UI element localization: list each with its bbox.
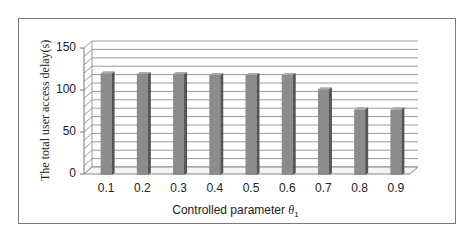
- gridline-wall: [84, 75, 92, 82]
- bar-0.6: [282, 75, 293, 175]
- bar-side: [148, 72, 151, 175]
- bar-0.4: [209, 75, 220, 175]
- gridline-wall: [84, 133, 92, 140]
- bar-side: [112, 71, 115, 175]
- gridline-wall: [84, 142, 92, 149]
- x-tick-label: 0.6: [272, 181, 302, 195]
- gridline-wall: [84, 58, 92, 65]
- bar-side: [257, 73, 260, 175]
- gridline-wall: [84, 100, 92, 107]
- y-tick-label: 50: [46, 124, 76, 138]
- gridline-wall: [84, 150, 92, 157]
- gridline-wall: [84, 83, 92, 90]
- gridline-wall: [84, 159, 92, 166]
- gridline-wall: [84, 91, 92, 98]
- x-tick-label: 0.8: [345, 181, 375, 195]
- x-tick-label: 0.1: [91, 181, 121, 195]
- bar-0.3: [173, 74, 184, 175]
- bar-0.2: [137, 74, 148, 175]
- x-tick-label: 0.9: [381, 181, 411, 195]
- gridline-wall: [84, 117, 92, 124]
- x-tick-label: 0.5: [236, 181, 266, 195]
- x-axis-label: Controlled parameter θ1: [0, 203, 471, 219]
- bar-side: [401, 107, 404, 175]
- bar-side: [293, 73, 296, 175]
- bar-side: [220, 73, 223, 175]
- x-axis-label-text: Controlled parameter: [172, 203, 288, 217]
- y-tick-label: 150: [46, 40, 76, 54]
- bar-side: [365, 107, 368, 175]
- bar-side: [184, 72, 187, 175]
- y-tick-label: 0: [46, 166, 76, 180]
- theta-subscript: 1: [294, 210, 298, 219]
- y-axis-label: The total user access delay(s): [38, 41, 54, 181]
- x-tick-label: 0.3: [164, 181, 194, 195]
- gridline-wall: [84, 66, 92, 73]
- gridline-wall: [84, 108, 92, 115]
- bar-0.8: [354, 109, 365, 175]
- y-tick-label: 100: [46, 82, 76, 96]
- bar-side: [329, 87, 332, 175]
- bar-0.1: [101, 73, 112, 175]
- gridline-wall: [84, 41, 92, 48]
- gridline-wall: [84, 49, 92, 56]
- x-tick-label: 0.7: [308, 181, 338, 195]
- x-tick-label: 0.4: [200, 181, 230, 195]
- bar-0.9: [390, 109, 401, 175]
- bar-0.5: [246, 75, 257, 175]
- gridline-wall: [84, 125, 92, 132]
- bar-0.7: [318, 89, 329, 175]
- x-tick-label: 0.2: [127, 181, 157, 195]
